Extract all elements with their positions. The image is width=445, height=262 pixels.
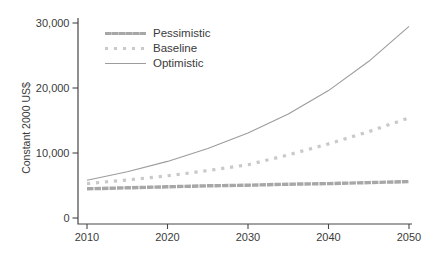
legend-label-pessimistic: Pessimistic	[153, 26, 211, 41]
x-tick-label: 2010	[75, 231, 99, 243]
y-tick-label: 30,000	[36, 17, 70, 29]
legend-item-optimistic: Optimistic	[105, 56, 211, 71]
y-axis-title: Constant 2000 US$	[20, 82, 32, 174]
x-tick-label: 2050	[397, 231, 421, 243]
line-chart: 010,00020,00030,00020102020203020402050 …	[0, 0, 445, 262]
legend-item-pessimistic: Pessimistic	[105, 26, 211, 41]
series-line-baseline	[87, 118, 409, 184]
legend-item-baseline: Baseline	[105, 41, 211, 56]
y-tick-label: 20,000	[36, 82, 70, 94]
y-tick-label: 10,000	[36, 147, 70, 159]
optimistic-line-swatch	[105, 63, 146, 64]
pessimistic-line-swatch	[105, 32, 146, 36]
y-tick-label: 0	[63, 212, 69, 224]
series-line-pessimistic	[87, 182, 409, 189]
legend-label-baseline: Baseline	[153, 41, 197, 56]
x-tick-label: 2030	[236, 231, 260, 243]
axes: 010,00020,00030,00020102020203020402050	[36, 17, 421, 243]
x-tick-label: 2040	[316, 231, 340, 243]
legend: Pessimistic Baseline Optimistic	[105, 26, 211, 71]
baseline-dotted-swatch	[105, 47, 146, 50]
legend-label-optimistic: Optimistic	[153, 56, 203, 71]
chart-figure: 010,00020,00030,00020102020203020402050 …	[0, 0, 445, 262]
x-tick-label: 2020	[155, 231, 179, 243]
